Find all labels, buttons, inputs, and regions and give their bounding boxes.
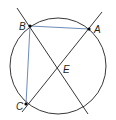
- segment-bc: [26, 26, 30, 104]
- point-a: [87, 27, 90, 30]
- geometry-diagram: B A C E: [0, 0, 116, 120]
- label-c: C: [16, 101, 24, 112]
- label-e: E: [63, 64, 70, 75]
- line-through-b-and-e: [17, 8, 88, 114]
- point-b: [28, 24, 31, 27]
- circle: [10, 18, 106, 114]
- label-a: A: [93, 24, 101, 35]
- line-through-c-e-a: [22, 12, 102, 112]
- segment-ba: [30, 26, 89, 29]
- label-b: B: [19, 21, 26, 32]
- point-c: [24, 102, 27, 105]
